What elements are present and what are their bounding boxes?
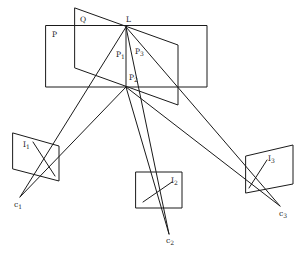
label-c2: c2 [166,236,174,246]
ray-l-to-c1 [20,27,126,197]
label-i3: I3 [268,154,275,164]
label-p1: P1 [116,50,125,60]
label-i1: I1 [23,140,30,150]
ray-p2-to-c2 [126,87,169,234]
label-p2: P2 [129,73,138,83]
label-p: P [52,30,57,39]
ray-l-to-c3 [126,27,280,206]
ray-p2-to-c3 [126,87,280,206]
image-line-2 [143,182,172,202]
label-p3: P3 [135,47,144,57]
label-q: Q [80,15,86,24]
image-plane-1 [13,133,59,181]
label-c1: c1 [14,200,22,210]
label-l: L [126,15,131,24]
projection-diagram: Q P L P1 P3 P2 I1 I2 I3 c1 c2 c3 [0,0,300,254]
image-line-3 [249,160,267,188]
label-c3: c3 [279,209,287,219]
ray-l-to-c2 [126,27,169,234]
label-i2: I2 [171,176,178,186]
image-plane-2 [136,172,182,208]
ray-p2-to-c1 [20,87,126,197]
